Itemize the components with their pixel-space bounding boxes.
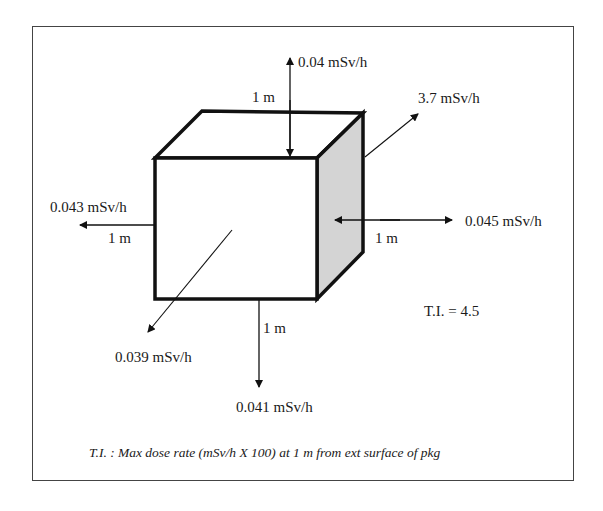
transport-index-label: T.I. = 4.5 [424,303,479,319]
front-rate-label: 0.039 mSv/h [115,349,192,365]
left-distance-label: 1 m [108,230,131,246]
top-rate-label: 0.04 mSv/h [298,54,368,70]
left-rate-label: 0.043 mSv/h [50,199,127,215]
right-rate-label: 0.045 mSv/h [465,213,542,229]
package-dose-diagram: 0.04 mSv/h 1 m 3.7 mSv/h 0.043 mSv/h 1 m… [0,0,603,511]
bottom-distance-label: 1 m [263,320,286,336]
corner-measure-arrow [365,114,418,157]
bottom-rate-label: 0.041 mSv/h [236,399,313,415]
top-distance-label: 1 m [252,89,275,105]
caption: T.I. : Max dose rate (mSv/h X 100) at 1 … [89,445,441,460]
cube-front-face [155,158,317,299]
corner-rate-label: 3.7 mSv/h [418,90,480,106]
package-cube [155,111,363,299]
right-distance-label: 1 m [375,230,398,246]
